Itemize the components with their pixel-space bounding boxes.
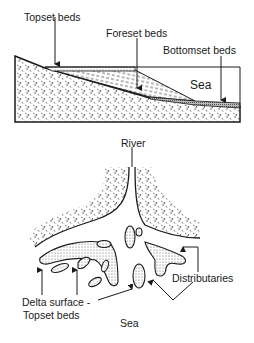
label-topset-beds: Topset beds [24,11,81,23]
land-left [28,167,129,247]
label-river: River [121,137,146,149]
cross-section: Topset beds Foreset beds Bottomset beds … [15,11,240,122]
delta-diagram: Topset beds Foreset beds Bottomset beds … [0,0,254,343]
land-right [135,167,200,238]
label-bottomset-beds: Bottomset beds [163,44,236,56]
label-foreset-beds: Foreset beds [106,27,167,39]
label-delta-surface-2: Topset beds [23,309,80,321]
label-sea-plan: Sea [120,317,139,329]
delta-surface-arrow-3 [98,289,132,300]
label-delta-surface-1: Delta surface - [22,296,91,308]
topset-beds-region [45,67,135,71]
delta-islands [40,226,186,289]
label-distributaries: Distributaries [172,272,233,284]
label-sea-section: Sea [190,78,212,92]
plan-view: River Distributaries Delta surface - Top… [22,137,233,329]
